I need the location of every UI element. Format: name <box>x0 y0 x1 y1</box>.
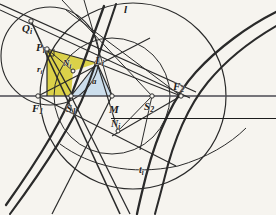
hyperbola-branch-right <box>137 12 276 214</box>
label-ri: ri <box>37 65 42 75</box>
label-Qi-text: Q <box>22 22 30 34</box>
label-M: M <box>109 104 119 115</box>
geometry-figure: QiPiriNiLilaF1S1MS2F2Niti <box>0 0 276 215</box>
point-Ni <box>71 69 75 73</box>
point-F1 <box>36 94 40 98</box>
point-Pi <box>45 47 49 51</box>
label-F1-subscript: 1 <box>39 107 43 116</box>
label-ti: ti <box>139 165 144 177</box>
label-l-text: l <box>124 3 127 15</box>
label-F1: F1 <box>32 103 43 116</box>
label-Pi: Pi <box>36 42 45 55</box>
label-l: l <box>124 4 127 15</box>
label-Qi: Qi <box>22 23 32 36</box>
line-S1-to-Nbari <box>71 96 130 214</box>
label-S1-subscript: 1 <box>72 107 76 116</box>
label-F2-subscript: 2 <box>180 85 184 94</box>
label-Pi-subscript: i <box>43 46 45 55</box>
label-S2-subscript: 2 <box>150 105 154 114</box>
label-M-text: M <box>109 103 119 115</box>
point-M <box>110 94 114 98</box>
label-Ni-subscript: i <box>70 62 72 69</box>
label-Qi-subscript: i <box>30 27 32 36</box>
label-Li: Li <box>95 55 104 68</box>
label-S2: S2 <box>144 101 154 114</box>
label-S1: S1 <box>66 103 76 116</box>
label-Ni: Ni <box>63 59 71 69</box>
label-ri-subscript: i <box>41 68 43 75</box>
label-Li-subscript: i <box>102 59 104 68</box>
label-Li-text: L <box>95 54 102 66</box>
label-Nbari: Ni <box>111 119 276 131</box>
label-Pi-text: P <box>36 41 43 53</box>
label-ti-subscript: i <box>142 169 144 177</box>
point-S2 <box>150 94 154 98</box>
label-Nbari-subscript: i <box>118 123 120 131</box>
point-S1 <box>69 94 73 98</box>
label-a: a <box>92 77 97 86</box>
label-F2: F2 <box>173 81 184 94</box>
label-a-text: a <box>92 76 97 86</box>
point-F2 <box>179 94 183 98</box>
